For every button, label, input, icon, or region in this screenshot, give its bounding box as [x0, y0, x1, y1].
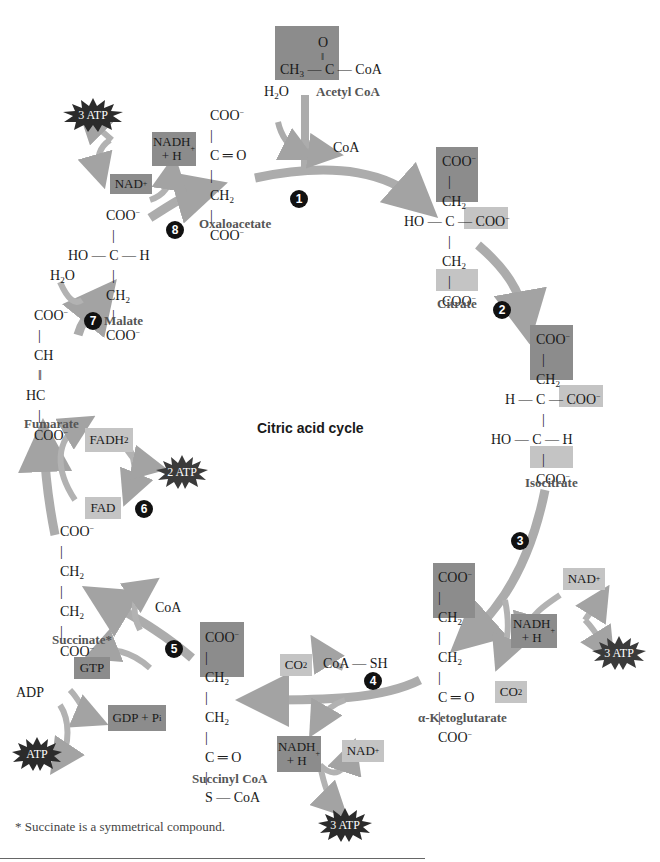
step4-nad: NAD+: [342, 740, 384, 762]
atp-label-step8: 3 ATP: [78, 108, 108, 123]
step3-co2: CO2: [495, 681, 527, 703]
atp-label-step3: 3 ATP: [604, 646, 634, 661]
step-marker-5: 5: [165, 640, 183, 658]
atp-burst-step8: 3 ATP: [62, 98, 124, 132]
atp-burst-step3: 3 ATP: [592, 636, 646, 670]
akg-label: α-Ketoglutarate: [418, 710, 507, 726]
step1-coa-out: CoA: [333, 140, 359, 156]
bottom-rule: [0, 858, 425, 859]
atp-label-step4: 3 ATP: [330, 818, 360, 833]
step7-water: H2O: [50, 268, 75, 284]
step6-fad: FAD: [85, 497, 121, 519]
step-marker-4: 4: [364, 672, 382, 690]
step5-gtp: GTP: [74, 657, 110, 679]
step5-coa: CoA: [155, 600, 181, 616]
atp-burst-step5: ATP: [12, 737, 62, 771]
malate-label: Malate: [104, 313, 143, 329]
step-marker-8: 8: [166, 221, 184, 239]
step-marker-7: 7: [84, 312, 102, 330]
atp-burst-step4: 3 ATP: [318, 808, 372, 842]
step5-gdp-pi: GDP + Pi: [108, 705, 166, 731]
citrate-structure: COO− | CH2 HO — C — COO− | CH2 | COO−: [404, 152, 510, 312]
step4-coa-sh: CoA — SH: [323, 656, 388, 672]
atp-label-step6: 2 ATP: [167, 465, 197, 480]
isocitrate-structure: COO− | CH2 H — C — COO− | HO — C — H | C…: [505, 330, 601, 490]
step3-nad: NAD+: [563, 568, 605, 590]
step-marker-3: 3: [511, 532, 529, 550]
succinate-label: Succinate*: [52, 632, 112, 648]
atp-burst-step6: 2 ATP: [156, 455, 208, 489]
fumarate-label: Fumarate: [24, 416, 79, 432]
step1-water: H2O: [264, 84, 289, 100]
step8-nadh: NADH+ H+: [152, 132, 196, 166]
step4-nadh: NADH+ H+: [277, 736, 321, 772]
atp-label-step5: ATP: [26, 747, 47, 762]
succinyl-coa-label: Succinyl CoA: [192, 771, 267, 787]
step-marker-1: 1: [290, 190, 308, 208]
diagram-title: Citric acid cycle: [257, 420, 364, 436]
oxaloacetate-label: Oxaloacetate: [199, 216, 271, 232]
step-marker-6: 6: [135, 500, 153, 518]
step3-nadh: NADH+ H+: [511, 614, 557, 648]
step-marker-2: 2: [493, 301, 511, 319]
isocitrate-label: Isocitrate: [525, 475, 578, 491]
footnote: * Succinate is a symmetrical compound.: [15, 819, 225, 835]
acetyl-coa-formula: CH3 — C — CoA: [280, 62, 382, 78]
step8-nad: NAD+: [110, 174, 152, 194]
step4-co2: CO2: [280, 654, 312, 676]
acetyl-coa-label: Acetyl CoA: [316, 84, 380, 100]
step5-adp: ADP: [16, 685, 44, 701]
step6-fadh2: FADH2: [85, 428, 133, 452]
citrate-label: Citrate: [437, 296, 477, 312]
